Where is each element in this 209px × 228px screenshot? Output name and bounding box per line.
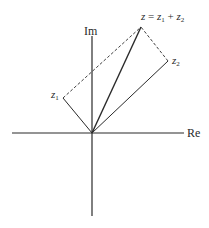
z1-label: z1 <box>50 88 59 102</box>
vector-z2 <box>92 61 168 133</box>
z2-label-sub: 2 <box>176 60 180 68</box>
z2-label: z2 <box>171 54 180 68</box>
vector-z1 <box>63 98 92 133</box>
sum-label-t2-sub: 2 <box>181 16 185 24</box>
vector-sum-z <box>92 27 141 133</box>
dashed-edge-z2-to-z <box>141 27 168 61</box>
sum-label: z = z1 + z2 <box>140 10 185 24</box>
sum-label-plus: + <box>165 10 177 22</box>
complex-addition-diagram: Im Re z1 z2 z = z1 + z2 <box>0 0 209 228</box>
dashed-edge-z1-to-z <box>63 27 141 98</box>
imag-axis-label: Im <box>84 24 98 38</box>
real-axis-label: Re <box>187 126 200 140</box>
z1-label-sub: 1 <box>55 94 59 102</box>
sum-label-equals: = <box>145 10 157 22</box>
